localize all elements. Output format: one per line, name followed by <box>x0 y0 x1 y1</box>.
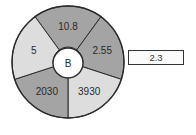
segment-label: 2.55 <box>93 45 113 56</box>
answer-box[interactable]: 2.3 <box>128 50 184 65</box>
center-label: B <box>65 58 72 69</box>
segment-label: 3930 <box>78 86 101 97</box>
segment-label: 5 <box>31 45 37 56</box>
segment-label: 2030 <box>36 86 59 97</box>
number-wheel: 10.82.55393020305 B <box>0 0 196 135</box>
segment-label: 10.8 <box>58 21 78 32</box>
